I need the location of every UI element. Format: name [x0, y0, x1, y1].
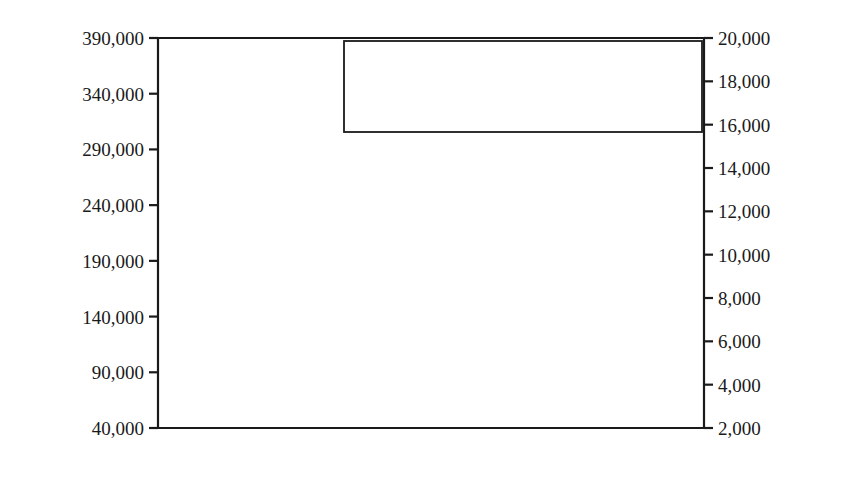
y-axis-right-tick-label: 4,000	[718, 375, 761, 396]
y-axis-right-tick-label: 18,000	[718, 71, 770, 92]
line-chart: 40,00090,000140,000190,000240,000290,000…	[0, 0, 852, 486]
y-axis-left-tick-label: 90,000	[92, 362, 144, 383]
y-axis-left-tick-label: 140,000	[82, 307, 144, 328]
y-axis-right-tick-label: 20,000	[718, 28, 770, 49]
y-axis-right-tick-label: 8,000	[718, 288, 761, 309]
legend-box	[344, 41, 702, 132]
chart-legend	[344, 41, 702, 132]
y-axis-right-tick-label: 2,000	[718, 418, 761, 439]
chart-figure: 40,00090,000140,000190,000240,000290,000…	[0, 0, 852, 486]
y-axis-right-tick-label: 14,000	[718, 158, 770, 179]
y-axis-right-tick-label: 16,000	[718, 115, 770, 136]
y-axis-left-tick-label: 340,000	[82, 84, 144, 105]
y-axis-right-tick-label: 6,000	[718, 331, 761, 352]
y-axis-left-tick-label: 190,000	[82, 251, 144, 272]
y-axis-right-tick-label: 12,000	[718, 201, 770, 222]
y-axis-left-ticks: 40,00090,000140,000190,000240,000290,000…	[82, 28, 158, 439]
y-axis-left-tick-label: 240,000	[82, 195, 144, 216]
y-axis-right-tick-label: 10,000	[718, 245, 770, 266]
y-axis-left-tick-label: 390,000	[82, 28, 144, 49]
y-axis-right-ticks: 2,0004,0006,0008,00010,00012,00014,00016…	[704, 28, 770, 439]
y-axis-left-tick-label: 40,000	[92, 418, 144, 439]
y-axis-left-tick-label: 290,000	[82, 139, 144, 160]
